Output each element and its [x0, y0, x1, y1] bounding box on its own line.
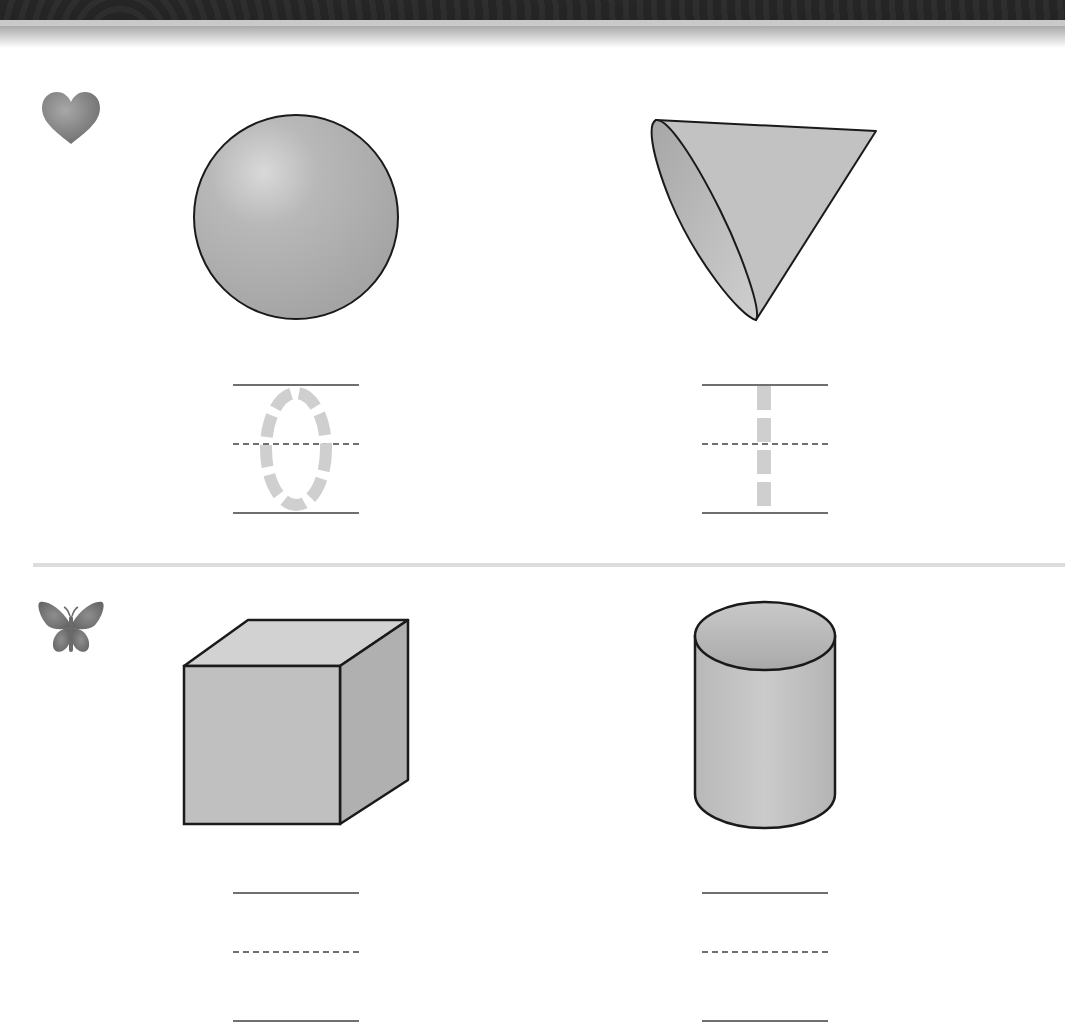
- writing-area-cylinder[interactable]: [702, 892, 828, 1022]
- row-1: [0, 80, 1065, 530]
- trace-digit-one: [702, 384, 828, 514]
- header-fade: [0, 26, 1065, 48]
- writing-area-cube[interactable]: [233, 892, 359, 1022]
- cube-shape: [180, 618, 412, 830]
- trace-digit-zero: [233, 384, 359, 514]
- cylinder-shape: [692, 600, 838, 832]
- guide-line-bottom: [702, 1020, 828, 1022]
- writing-area-sphere[interactable]: 0: [233, 384, 359, 514]
- guide-line-bottom: [233, 1020, 359, 1022]
- heart-icon: [38, 88, 104, 148]
- header-decorative-band: [0, 0, 1065, 20]
- butterfly-icon: [36, 596, 106, 658]
- row-divider: [33, 563, 1065, 567]
- sphere-shape: [190, 112, 402, 324]
- cone-shape: [640, 110, 890, 330]
- writing-area-cone[interactable]: 1: [702, 384, 828, 514]
- guide-line-top: [702, 892, 828, 894]
- guide-line-top: [233, 892, 359, 894]
- guide-line-midline: [233, 951, 359, 953]
- guide-line-midline: [702, 951, 828, 953]
